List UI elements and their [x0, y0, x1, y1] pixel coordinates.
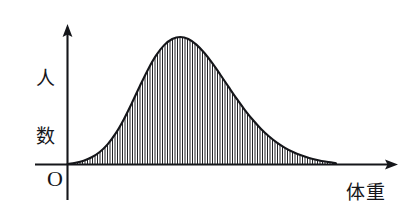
y-axis-label: 人 数 [30, 30, 60, 184]
curve-hatch-fill [70, 33, 335, 164]
origin-label: O [47, 168, 63, 190]
y-axis-label-char-2: 数 [30, 126, 60, 146]
bell-curve-line [68, 37, 337, 164]
normal-distribution-figure: 人 数 体重 O [0, 0, 417, 222]
x-axis-label: 体重 [346, 183, 386, 202]
y-axis-label-char-1: 人 [30, 68, 60, 88]
